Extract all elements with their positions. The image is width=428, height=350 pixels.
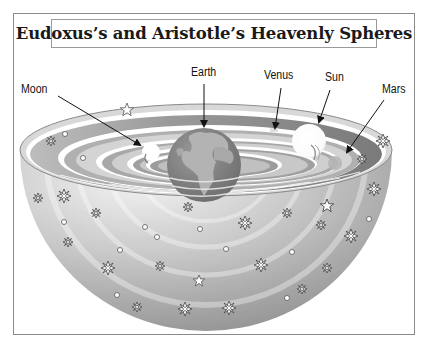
starburst-icon — [178, 302, 192, 316]
venus-body — [270, 128, 278, 132]
starburst-icon — [91, 208, 101, 218]
starburst-icon — [57, 189, 71, 203]
starburst-icon — [222, 301, 236, 315]
starburst-icon — [183, 202, 193, 212]
starburst-icon — [238, 216, 252, 230]
label-moon: Moon — [21, 82, 47, 96]
starburst-icon — [101, 261, 115, 275]
starburst-icon — [316, 220, 326, 230]
starburst-icon — [282, 208, 292, 218]
starburst-icon — [376, 134, 390, 148]
starburst-icon — [254, 258, 268, 272]
starburst-icon — [357, 154, 367, 164]
heavenly-spheres-diagram — [0, 0, 428, 350]
starburst-icon — [33, 193, 43, 203]
label-earth: Earth — [191, 65, 216, 79]
starburst-icon — [367, 182, 381, 196]
starburst-icon — [322, 263, 332, 273]
label-mars: Mars — [382, 82, 405, 96]
label-venus: Venus — [264, 68, 293, 82]
starburst-icon — [46, 136, 56, 146]
starburst-icon — [155, 261, 165, 271]
starburst-icon — [63, 237, 73, 247]
starburst-icon — [344, 229, 358, 243]
starburst-icon — [297, 284, 307, 294]
label-sun: Sun — [325, 70, 344, 84]
starburst-icon — [132, 302, 142, 312]
mars-body — [328, 156, 342, 170]
